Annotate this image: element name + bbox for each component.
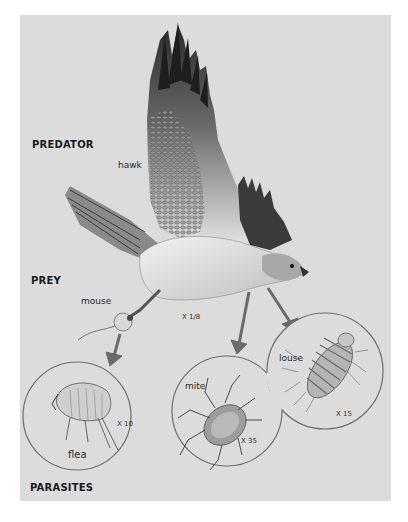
mite-louse-insets [172,313,383,470]
flea-scale: X 10 [117,420,133,428]
parasites-heading: PARASITES [30,482,93,493]
mouse-illustration [78,313,133,340]
hawk-scale: X 1/8 [182,313,200,321]
flea-label: flea [68,449,87,460]
prey-heading: PREY [31,275,61,286]
mouse-label: mouse [81,296,111,306]
arrow-to-mite-icon [231,340,247,354]
food-chain-illustration [0,0,408,522]
hawk-label: hawk [118,160,142,170]
louse-label: louse [279,353,303,363]
predator-heading: PREDATOR [32,139,94,150]
hawk-illustration [65,22,309,318]
arrow-to-flea-icon [106,352,122,366]
mite-scale: X 35 [241,437,257,445]
mite-label: mite [185,381,205,391]
louse-scale: X 15 [336,410,352,418]
